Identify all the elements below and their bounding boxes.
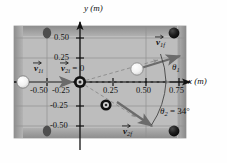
pocket-bottom-right-ball: [169, 126, 180, 137]
vector-arrow-icon: [60, 60, 69, 65]
x-tick-050: 0.50: [136, 86, 151, 95]
ball-target-final: [100, 99, 111, 110]
v1f-subscript: 1f: [160, 41, 165, 48]
angle-label-theta2: θ2 = 34°: [160, 107, 190, 116]
vector-label-v1i: v1i: [34, 64, 43, 73]
theta2-subscript: 2: [164, 110, 167, 117]
ball-cue-initial: [17, 76, 29, 88]
x-tick-neg025: -0.25: [52, 86, 70, 95]
theta2-value: = 34°: [168, 106, 190, 116]
y-tick-neg050: -0.50: [50, 121, 68, 130]
y-tick-neg025: -0.25: [50, 101, 68, 110]
y-tick-050: 0.50: [54, 33, 69, 42]
angle-label-theta1: θ1: [172, 63, 180, 72]
x-tick-075: 0.75: [169, 86, 184, 95]
vector-label-v2f: v2f: [123, 127, 132, 136]
ball-cue-final: [131, 63, 143, 75]
figure-canvas: x (m) y (m) -0.50 -0.25 0.25 0.50 0.75 0…: [0, 0, 227, 163]
y-axis-label: y (m): [84, 4, 103, 13]
x-axis-label: x (m): [188, 77, 207, 86]
pocket-top-right-ball: [169, 28, 180, 39]
v2i-subscript: 2i: [65, 67, 70, 74]
vector-label-v2i: v2i = 0: [61, 64, 84, 73]
x-tick-025: 0.25: [103, 86, 118, 95]
v1i-subscript: 1i: [38, 67, 43, 74]
theta1-subscript: 1: [176, 66, 179, 73]
vector-arrow-icon: [122, 123, 131, 128]
vector-label-v1f: v1f: [156, 38, 165, 47]
pocket-top-left: [43, 28, 51, 39]
vector-arrow-icon: [155, 34, 164, 39]
ball-target-origin: [74, 76, 86, 88]
v2f-subscript: 2f: [127, 130, 132, 137]
v2i-equals-zero: = 0: [70, 63, 84, 73]
x-tick-neg050: -0.50: [30, 86, 48, 95]
vector-arrow-icon: [33, 60, 42, 65]
